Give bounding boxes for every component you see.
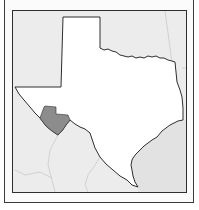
texas-locator-map (0, 0, 199, 210)
